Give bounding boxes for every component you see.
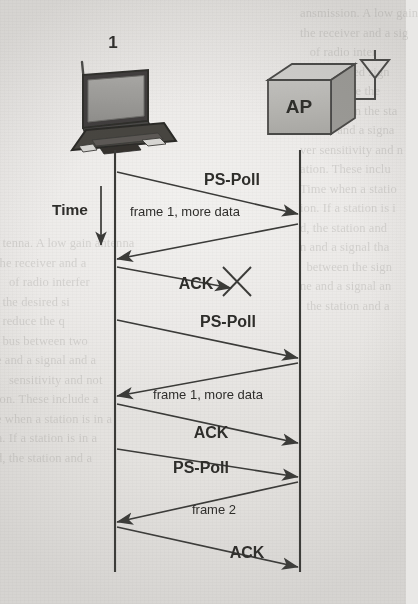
scan-vignette [0, 0, 406, 604]
ps-poll-sequence-figure: tenna. A low gain antenna the receiver a… [0, 0, 406, 604]
